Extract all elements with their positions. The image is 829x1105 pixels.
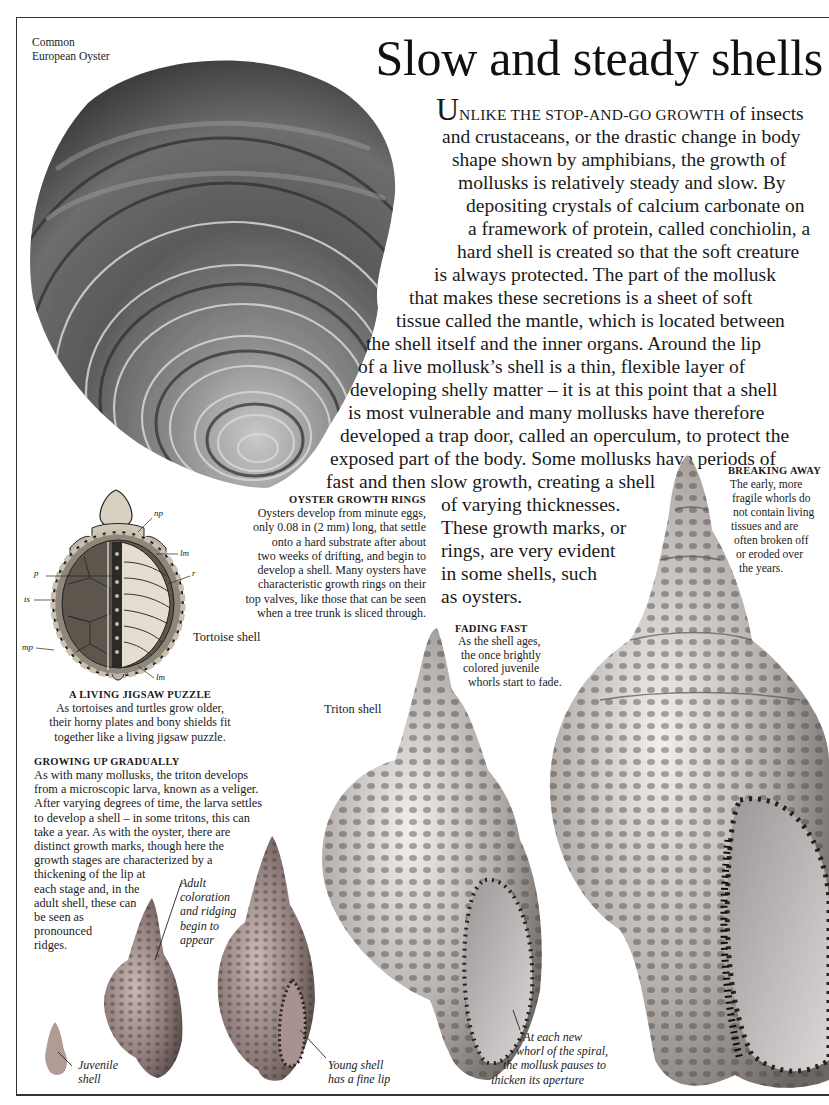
note-line: the mollusk pauses to: [462, 1058, 612, 1072]
young-triton-shell: [218, 836, 315, 1081]
note-line: thicken its aperture: [462, 1073, 612, 1087]
note-line: whorl of the spiral,: [462, 1044, 612, 1058]
note-line: appear: [180, 933, 236, 947]
triton-shells-illustration: [0, 0, 829, 1105]
small-triton-shell: [104, 898, 182, 1078]
note-line: begin to: [180, 919, 236, 933]
note-line: coloration: [180, 890, 236, 904]
note-line: and ridging: [180, 904, 236, 918]
adult-triton-shell: [550, 455, 829, 1088]
each-whorl-note: At each new whorl of the spiral, the mol…: [462, 1030, 612, 1087]
note-line: has a fine lip: [328, 1072, 390, 1086]
young-shell-note: Young shell has a fine lip: [328, 1058, 390, 1086]
adult-coloration-note: Adult coloration and ridging begin to ap…: [180, 876, 236, 947]
juvenile-shell-note: Juvenile shell: [78, 1058, 118, 1086]
note-line: shell: [78, 1072, 118, 1086]
medium-triton-shell: [322, 628, 542, 1080]
note-line: Juvenile: [78, 1058, 118, 1072]
juvenile-shell: [45, 1022, 67, 1075]
note-line: Young shell: [328, 1058, 390, 1072]
note-line: Adult: [180, 876, 236, 890]
note-line: At each new: [462, 1030, 612, 1044]
